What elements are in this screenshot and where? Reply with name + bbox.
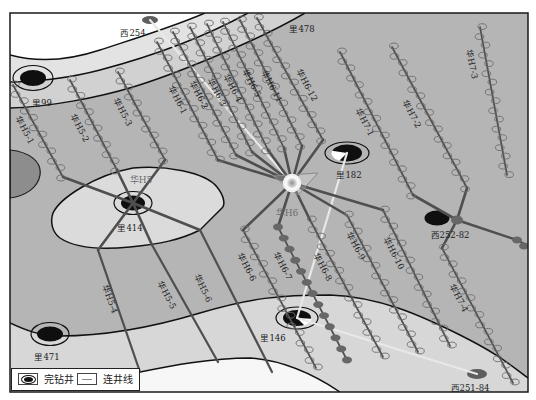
filled-marker-icon xyxy=(325,323,335,330)
filled-marker-icon xyxy=(290,257,300,264)
well-label: 里146 xyxy=(260,333,285,343)
well-label: 西252-82 xyxy=(431,230,470,240)
filled-marker-icon xyxy=(512,237,522,244)
filled-marker-icon xyxy=(302,279,312,286)
line-icon xyxy=(82,379,92,380)
well-label: 里414 xyxy=(117,223,142,233)
completed-well-legend-icon xyxy=(18,373,38,385)
legend: 完钻井 连井线 xyxy=(11,368,140,391)
platform-label: 华H6 xyxy=(276,207,299,218)
filled-marker-icon xyxy=(319,312,329,319)
filled-marker-icon xyxy=(342,357,352,364)
filled-marker-icon xyxy=(308,290,318,297)
well-core-icon xyxy=(24,377,33,382)
map-area: 西254里478里99里182里414西252-82里471里146西251-8… xyxy=(10,13,529,393)
filled-marker-icon xyxy=(331,334,341,341)
filled-marker-icon xyxy=(313,301,323,308)
well-label: 里478 xyxy=(289,24,314,34)
well-label: 里471 xyxy=(34,352,59,362)
well-label: 里182 xyxy=(336,170,361,180)
well-deployment-map: 西254里478里99里182里414西252-82里471里146西251-8… xyxy=(0,0,536,400)
completed-well-icon xyxy=(37,327,63,342)
legend-label-completed-well: 完钻井 xyxy=(44,373,74,386)
filled-marker-icon xyxy=(273,224,283,231)
filled-marker-icon xyxy=(279,235,289,242)
filled-marker-icon xyxy=(296,268,306,275)
filled-marker-icon xyxy=(285,246,295,253)
legend-label-tie-line: 连井线 xyxy=(103,373,133,386)
well-label: 西254 xyxy=(120,28,145,38)
filled-marker-icon xyxy=(336,346,346,353)
well-label: 里99 xyxy=(32,98,52,108)
completed-well-icon xyxy=(20,70,46,86)
tie-line-legend-icon xyxy=(77,373,97,385)
platform-pad-icon xyxy=(284,175,301,192)
platform-label: 华H5 xyxy=(130,174,153,185)
junction-dot-icon xyxy=(451,216,463,225)
